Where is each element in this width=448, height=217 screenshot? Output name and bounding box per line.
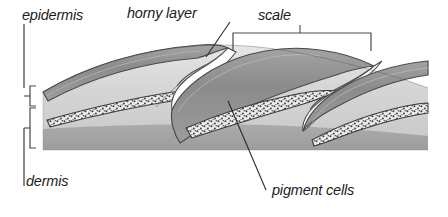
label-pigment-cells: pigment cells — [272, 183, 354, 198]
label-dermis: dermis — [26, 174, 68, 189]
reptile-skin-figure: epidermis horny layer scale dermis pigme… — [0, 0, 448, 217]
epidermis-bracket — [30, 86, 36, 106]
label-epidermis: epidermis — [22, 8, 83, 23]
dermis-bracket — [30, 108, 36, 148]
label-horny-layer: horny layer — [127, 6, 197, 21]
label-scale: scale — [258, 8, 291, 23]
